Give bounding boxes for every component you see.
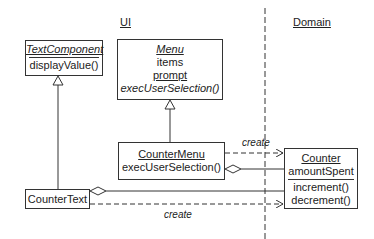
divider — [29, 57, 99, 58]
class-name: Menu — [118, 43, 222, 56]
operation: displayValue() — [26, 59, 102, 72]
operation: execUserSelection() — [119, 161, 224, 174]
package-label-domain: Domain — [293, 16, 331, 28]
aggregation-diamond-icon — [90, 187, 106, 195]
create-label: create — [242, 137, 270, 148]
operation: increment() — [285, 181, 357, 194]
class-counter[interactable]: Counter amountSpent increment() decremen… — [284, 148, 358, 209]
package-label-ui: UI — [120, 16, 131, 28]
operation: execUserSelection() — [118, 82, 222, 95]
class-menu[interactable]: Menu items prompt execUserSelection() — [117, 39, 223, 100]
create-label: create — [164, 209, 192, 220]
class-counter-text[interactable]: CounterText — [25, 189, 90, 209]
class-name: TextComponent — [26, 43, 102, 56]
divider — [288, 179, 354, 180]
generalization-triangle-icon — [53, 76, 63, 85]
class-name: Counter — [285, 152, 357, 165]
class-name: CounterText — [26, 193, 89, 206]
attribute: items — [118, 56, 222, 69]
attribute: amountSpent — [285, 165, 357, 178]
aggregation-diamond-icon — [225, 165, 241, 173]
generalization-triangle-icon — [165, 100, 175, 109]
class-text-component[interactable]: TextComponent displayValue() — [25, 40, 103, 76]
class-name: CounterMenu — [119, 148, 224, 161]
attribute: prompt — [118, 69, 222, 82]
class-counter-menu[interactable]: CounterMenu execUserSelection() — [118, 142, 225, 180]
operation: decrement() — [285, 194, 357, 207]
